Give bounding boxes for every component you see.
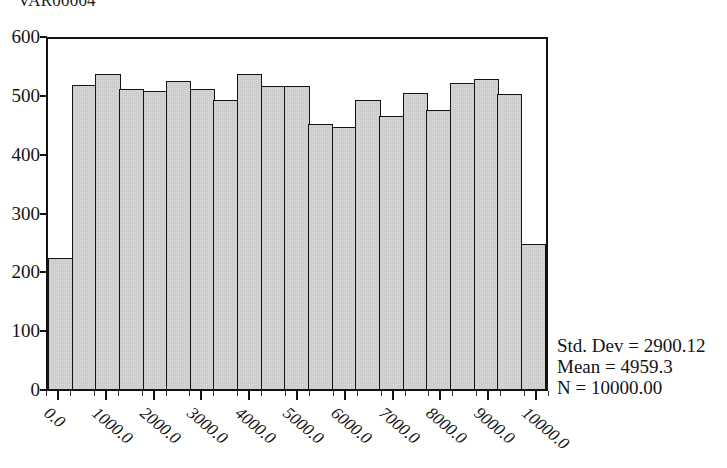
x-axis-minor-tick — [142, 391, 143, 396]
plot-area — [46, 37, 548, 390]
x-axis-minor-tick — [357, 391, 358, 396]
x-axis-label: 5000.0 — [280, 404, 327, 447]
histogram-bar — [190, 89, 215, 390]
y-axis-label: 100 — [0, 321, 40, 340]
histogram-bar — [497, 94, 522, 390]
histogram-bar — [143, 91, 168, 390]
y-axis-label: 200 — [0, 262, 40, 281]
x-axis-label: 3000.0 — [184, 404, 231, 447]
x-axis-minor-tick — [118, 391, 119, 396]
y-axis-label: 400 — [0, 145, 40, 164]
x-axis-tick — [200, 391, 202, 400]
histogram-chart: VAR00004 0100200300400500600 0.01000.020… — [0, 0, 727, 468]
x-axis-tick — [57, 391, 59, 400]
n-text: N = 10000.00 — [557, 377, 705, 398]
x-axis-tick — [105, 391, 107, 400]
x-axis-minor-tick — [285, 391, 286, 396]
x-axis-tick — [535, 391, 537, 400]
x-axis-tick — [296, 391, 298, 400]
x-axis-minor-tick — [94, 391, 95, 396]
histogram-bar — [521, 244, 546, 390]
x-axis-label: 2000.0 — [137, 404, 184, 447]
x-axis-minor-tick — [524, 391, 525, 396]
x-axis-minor-tick — [70, 391, 71, 396]
x-axis-minor-tick — [500, 391, 501, 396]
statistics-annotation: Std. Dev = 2900.12 Mean = 4959.3 N = 100… — [557, 335, 705, 398]
x-axis-minor-tick — [452, 391, 453, 396]
x-axis-label: 7000.0 — [376, 404, 423, 447]
histogram-bar — [166, 81, 191, 390]
x-axis-minor-tick — [237, 391, 238, 396]
histogram-bar — [379, 116, 404, 390]
x-axis-minor-tick — [189, 391, 190, 396]
histogram-bar — [48, 258, 73, 390]
y-axis-label-wrap: 100 — [0, 321, 40, 340]
histogram-bar — [355, 100, 380, 390]
y-axis-label: 0 — [0, 380, 40, 399]
x-axis-minor-tick — [213, 391, 214, 396]
x-axis-label: 4000.0 — [232, 404, 279, 447]
x-axis-label: 6000.0 — [328, 404, 375, 447]
bars-layer — [48, 39, 546, 390]
histogram-bar — [237, 74, 262, 390]
x-axis-minor-tick — [46, 391, 47, 396]
histogram-bar — [261, 86, 286, 390]
y-axis-label-wrap: 300 — [0, 204, 40, 223]
y-axis-label: 500 — [0, 86, 40, 105]
x-axis-label: 10000.0 — [519, 404, 572, 453]
x-axis-minor-tick — [309, 391, 310, 396]
y-axis-label-wrap: 600 — [0, 27, 40, 46]
histogram-bar — [426, 110, 451, 390]
histogram-bar — [403, 93, 428, 390]
x-axis-tick — [439, 391, 441, 400]
x-axis-tick — [344, 391, 346, 400]
histogram-bar — [474, 79, 499, 390]
histogram-bar — [72, 85, 97, 390]
chart-title: VAR00004 — [18, 0, 96, 11]
x-axis-label: 1000.0 — [89, 404, 136, 447]
x-axis-label: 9000.0 — [471, 404, 518, 447]
histogram-bar — [213, 100, 238, 390]
x-axis-tick — [392, 391, 394, 400]
histogram-bar — [308, 124, 333, 390]
y-axis-label-wrap: 500 — [0, 86, 40, 105]
histogram-bar — [119, 89, 144, 390]
y-axis-label: 600 — [0, 27, 40, 46]
y-axis-label-wrap: 400 — [0, 145, 40, 164]
x-axis-tick — [248, 391, 250, 400]
x-axis-minor-tick — [428, 391, 429, 396]
histogram-bar — [450, 83, 475, 390]
mean-text: Mean = 4959.3 — [557, 356, 705, 377]
x-axis-minor-tick — [476, 391, 477, 396]
y-axis-label-wrap: 200 — [0, 262, 40, 281]
histogram-bar — [95, 74, 120, 390]
x-axis-minor-tick — [261, 391, 262, 396]
y-axis-label: 300 — [0, 204, 40, 223]
std-dev-text: Std. Dev = 2900.12 — [557, 335, 705, 356]
x-axis-minor-tick — [548, 391, 549, 396]
x-axis-minor-tick — [333, 391, 334, 396]
histogram-bar — [284, 86, 309, 390]
x-axis-minor-tick — [166, 391, 167, 396]
x-axis-tick — [487, 391, 489, 400]
x-axis-tick — [153, 391, 155, 400]
x-axis-label: 0.0 — [41, 404, 68, 431]
x-axis-minor-tick — [381, 391, 382, 396]
x-axis-minor-tick — [405, 391, 406, 396]
y-axis-label-wrap: 0 — [0, 380, 40, 399]
x-axis-label: 8000.0 — [423, 404, 470, 447]
histogram-bar — [332, 127, 357, 390]
